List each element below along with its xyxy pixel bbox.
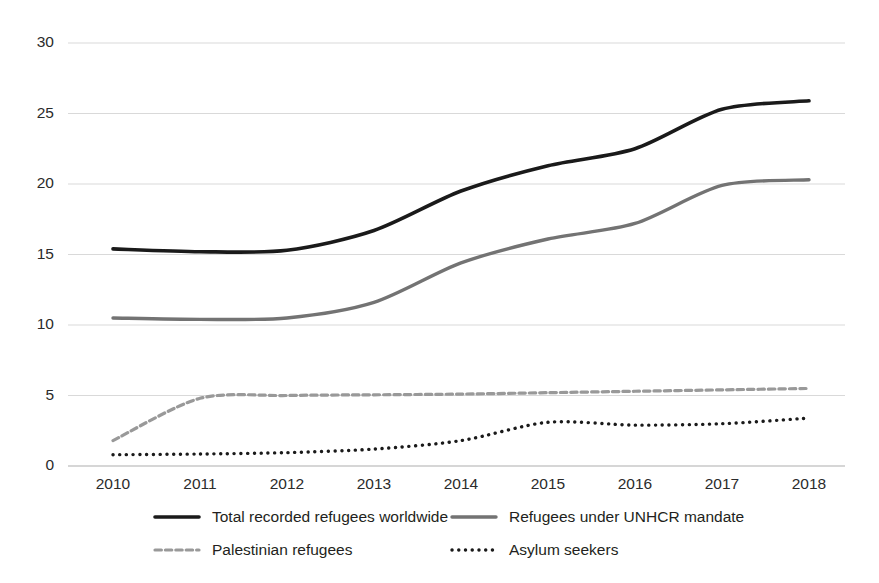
x-axis-tick-label: 2012	[270, 475, 304, 492]
legend-label-1[interactable]: Total recorded refugees worldwide	[212, 508, 448, 525]
y-axis-tick-label: 15	[37, 245, 54, 262]
legend-label-3[interactable]: Palestinian refugees	[212, 541, 353, 558]
x-axis-tick-label: 2018	[792, 475, 826, 492]
x-axis-tick-labels: 201020112012201320142015201620172018	[96, 475, 826, 492]
line-chart: 051015202530 201020112012201320142015201…	[0, 0, 879, 583]
y-axis-tick-label: 0	[45, 456, 54, 473]
x-axis-tick-label: 2017	[705, 475, 739, 492]
x-axis-tick-label: 2011	[183, 475, 216, 492]
x-axis-tick-label: 2013	[357, 475, 391, 492]
x-axis-tick-label: 2016	[618, 475, 652, 492]
x-axis-tick-label: 2015	[531, 475, 565, 492]
chart-container: 051015202530 201020112012201320142015201…	[0, 0, 879, 583]
y-axis-tick-label: 10	[37, 315, 55, 332]
x-axis-tick-label: 2014	[444, 475, 479, 492]
legend-label-4[interactable]: Asylum seekers	[509, 541, 619, 558]
x-axis-tick-label: 2010	[96, 475, 131, 492]
legend-label-2[interactable]: Refugees under UNHCR mandate	[509, 508, 744, 525]
y-axis-tick-label: 5	[45, 386, 54, 403]
y-axis-tick-label: 20	[37, 174, 55, 191]
y-axis-tick-label: 25	[37, 104, 54, 121]
y-axis-tick-label: 30	[37, 33, 55, 50]
chart-background	[0, 0, 879, 583]
